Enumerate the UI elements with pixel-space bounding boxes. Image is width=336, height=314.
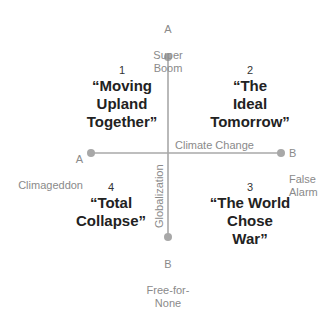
horizontal-axis-name: Climate Change <box>175 139 254 152</box>
top-end-letter: A <box>164 23 171 35</box>
bottom-end-label: B Free-for- None <box>133 245 203 310</box>
right-endpoint-dot <box>277 149 285 157</box>
quadrant-3: 3 “The World Chose War” <box>190 181 310 248</box>
quadrant-1: 1 “Moving Upland Together” <box>72 64 172 131</box>
quadrant-title: “The Ideal Tomorrow” <box>195 77 305 131</box>
quadrant-title: “The World Chose War” <box>190 194 310 248</box>
quadrant-title: “Moving Upland Together” <box>72 77 172 131</box>
quadrant-number: 3 <box>190 181 310 194</box>
bottom-endpoint-dot <box>164 233 172 241</box>
bottom-end-letter: B <box>164 258 171 270</box>
quadrant-number: 2 <box>195 64 305 77</box>
quadrant-2: 2 “The Ideal Tomorrow” <box>195 64 305 131</box>
quadrant-4: 4 “Total Collapse” <box>66 181 156 230</box>
quadrant-number: 4 <box>66 181 156 194</box>
left-endpoint-dot <box>87 149 95 157</box>
right-end-letter: B <box>289 147 296 159</box>
quadrant-number: 1 <box>72 64 172 77</box>
bottom-end-name: Free-for- None <box>147 284 190 309</box>
left-end-letter: A <box>76 153 83 165</box>
quadrant-title: “Total Collapse” <box>66 194 156 230</box>
